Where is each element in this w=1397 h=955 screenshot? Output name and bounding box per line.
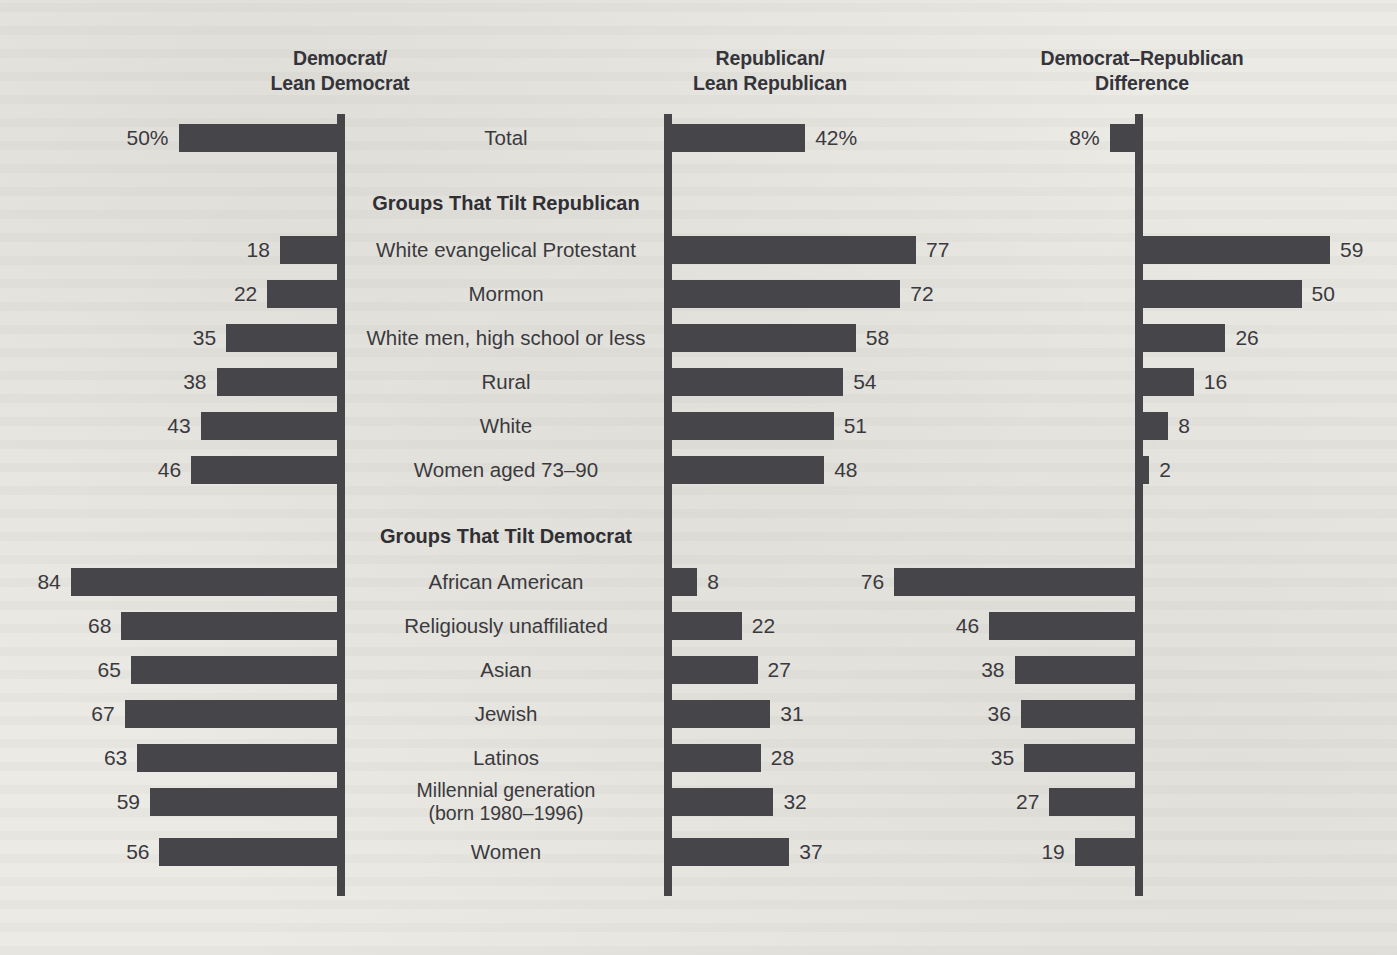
bar-democrat-mormon xyxy=(267,280,337,308)
bar-republican-white xyxy=(672,412,834,440)
chart-row: 63Latinos2835 xyxy=(0,736,1397,780)
row-label-mormon: Mormon xyxy=(349,272,663,316)
chart-row: 43White518 xyxy=(0,404,1397,448)
chart-row: 67Jewish3136 xyxy=(0,692,1397,736)
party-identification-chart: Democrat/ Lean Democrat Republican/ Lean… xyxy=(0,0,1397,955)
panel-header-democrat: Democrat/ Lean Democrat xyxy=(170,46,510,96)
bar-difference-white-evangelical-protestant xyxy=(1143,236,1330,264)
bar-difference-women xyxy=(1075,838,1135,866)
bar-difference-asian xyxy=(1015,656,1135,684)
chart-row: 35White men, high school or less5826 xyxy=(0,316,1397,360)
panel-header-republican: Republican/ Lean Republican xyxy=(600,46,940,96)
value-difference-millennial-generation: 27 xyxy=(1016,788,1039,816)
value-democrat-rural: 38 xyxy=(183,368,206,396)
value-democrat-jewish: 67 xyxy=(91,700,114,728)
value-difference-white-men-high-school-or-less: 26 xyxy=(1235,324,1258,352)
value-democrat-mormon: 22 xyxy=(234,280,257,308)
row-label-total: Total xyxy=(349,116,663,160)
bar-republican-latinos xyxy=(672,744,761,772)
bar-republican-women xyxy=(672,838,789,866)
value-republican-total: 42% xyxy=(815,124,857,152)
row-label-millennial-generation: Millennial generation(born 1980–1996) xyxy=(349,774,663,830)
section-heading-tilt-democrat: Groups That Tilt Democrat xyxy=(349,525,663,548)
value-republican-latinos: 28 xyxy=(771,744,794,772)
value-democrat-asian: 65 xyxy=(98,656,121,684)
bar-republican-millennial-generation xyxy=(672,788,773,816)
panel-header-difference-line1: Democrat–Republican xyxy=(972,46,1312,71)
row-label-asian: Asian xyxy=(349,648,663,692)
bar-republican-white-men-high-school-or-less xyxy=(672,324,856,352)
row-label-white-evangelical-protestant: White evangelical Protestant xyxy=(349,228,663,272)
value-democrat-religiously-unaffiliated: 68 xyxy=(88,612,111,640)
row-label-religiously-unaffiliated: Religiously unaffiliated xyxy=(349,604,663,648)
row-label-women-aged-73-90: Women aged 73–90 xyxy=(349,448,663,492)
value-republican-mormon: 72 xyxy=(910,280,933,308)
value-republican-jewish: 31 xyxy=(780,700,803,728)
value-difference-asian: 38 xyxy=(981,656,1004,684)
chart-row: 22Mormon7250 xyxy=(0,272,1397,316)
value-democrat-white-men-high-school-or-less: 35 xyxy=(193,324,216,352)
bar-democrat-latinos xyxy=(137,744,337,772)
row-label-white: White xyxy=(349,404,663,448)
bar-difference-women-aged-73-90 xyxy=(1143,456,1149,484)
value-difference-women: 19 xyxy=(1041,838,1064,866)
bar-democrat-white-evangelical-protestant xyxy=(280,236,337,264)
panel-header-democrat-line1: Democrat/ xyxy=(170,46,510,71)
value-democrat-white: 43 xyxy=(167,412,190,440)
bar-democrat-white xyxy=(201,412,337,440)
bar-republican-mormon xyxy=(672,280,900,308)
bar-difference-total xyxy=(1110,124,1135,152)
value-difference-african-american: 76 xyxy=(861,568,884,596)
bar-democrat-asian xyxy=(131,656,337,684)
bar-difference-jewish xyxy=(1021,700,1135,728)
value-republican-rural: 54 xyxy=(853,368,876,396)
bar-democrat-rural xyxy=(217,368,337,396)
chart-row: 38Rural5416 xyxy=(0,360,1397,404)
bar-democrat-jewish xyxy=(125,700,337,728)
value-republican-white-men-high-school-or-less: 58 xyxy=(866,324,889,352)
bar-republican-rural xyxy=(672,368,843,396)
value-republican-religiously-unaffiliated: 22 xyxy=(752,612,775,640)
row-label-jewish: Jewish xyxy=(349,692,663,736)
value-difference-total: 8% xyxy=(1069,124,1099,152)
value-democrat-total: 50% xyxy=(126,124,168,152)
value-democrat-white-evangelical-protestant: 18 xyxy=(247,236,270,264)
bar-republican-women-aged-73-90 xyxy=(672,456,824,484)
chart-row: 18White evangelical Protestant7759 xyxy=(0,228,1397,272)
value-democrat-women-aged-73-90: 46 xyxy=(158,456,181,484)
value-democrat-latinos: 63 xyxy=(104,744,127,772)
bar-republican-asian xyxy=(672,656,758,684)
chart-row: 46Women aged 73–90482 xyxy=(0,448,1397,492)
bar-republican-religiously-unaffiliated xyxy=(672,612,742,640)
chart-row: 50%Total42%8% xyxy=(0,116,1397,160)
row-label-white-men-high-school-or-less: White men, high school or less xyxy=(349,316,663,360)
value-difference-women-aged-73-90: 2 xyxy=(1159,456,1171,484)
chart-row: 84African American876 xyxy=(0,560,1397,604)
value-republican-asian: 27 xyxy=(768,656,791,684)
bar-democrat-total xyxy=(179,124,338,152)
row-label-rural: Rural xyxy=(349,360,663,404)
value-difference-white-evangelical-protestant: 59 xyxy=(1340,236,1363,264)
row-label-women: Women xyxy=(349,830,663,874)
section-heading-tilt-republican: Groups That Tilt Republican xyxy=(349,192,663,215)
value-difference-rural: 16 xyxy=(1204,368,1227,396)
bar-difference-millennial-generation xyxy=(1049,788,1135,816)
value-republican-african-american: 8 xyxy=(707,568,719,596)
chart-row: 59Millennial generation(born 1980–1996)3… xyxy=(0,780,1397,824)
value-democrat-women: 56 xyxy=(126,838,149,866)
bar-difference-religiously-unaffiliated xyxy=(989,612,1135,640)
panel-header-difference-line2: Difference xyxy=(972,71,1312,96)
value-democrat-african-american: 84 xyxy=(37,568,60,596)
bar-republican-total xyxy=(672,124,805,152)
chart-row: 56Women3719 xyxy=(0,830,1397,874)
value-republican-women: 37 xyxy=(799,838,822,866)
bar-democrat-millennial-generation xyxy=(150,788,337,816)
chart-row: 68Religiously unaffiliated2246 xyxy=(0,604,1397,648)
bar-difference-white xyxy=(1143,412,1168,440)
panel-header-difference: Democrat–Republican Difference xyxy=(972,46,1312,96)
value-difference-latinos: 35 xyxy=(991,744,1014,772)
bar-difference-rural xyxy=(1143,368,1194,396)
row-label-african-american: African American xyxy=(349,560,663,604)
bar-difference-african-american xyxy=(894,568,1135,596)
bar-difference-white-men-high-school-or-less xyxy=(1143,324,1225,352)
